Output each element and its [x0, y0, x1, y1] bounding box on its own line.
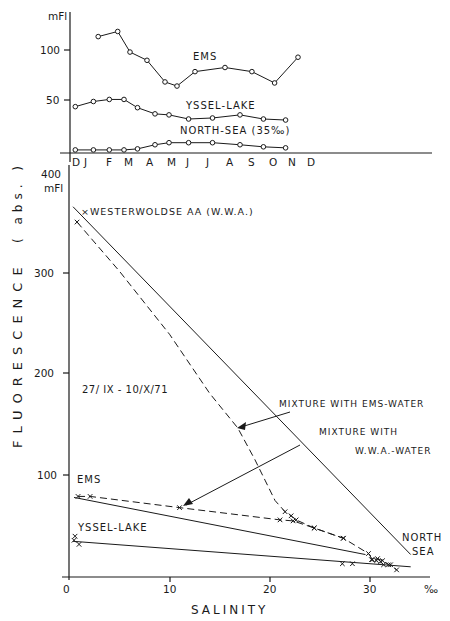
data-point-circle: [261, 145, 266, 150]
month-label: D: [307, 156, 315, 168]
wwa-label: ×WESTERWOLDSE AA (W.W.A.): [81, 206, 254, 217]
arrowhead-icon: [237, 422, 246, 430]
yssel-series-label: YSSEL-LAKE: [185, 100, 256, 111]
ytick-label-300: 300: [34, 267, 54, 279]
data-point-circle: [145, 58, 150, 63]
data-point-cross: [394, 568, 399, 573]
data-point-circle: [193, 69, 198, 74]
data-point-cross: [312, 526, 317, 531]
ems-mixture-arrow: [241, 412, 290, 427]
y-axis-title-suffix: ( abs. ): [11, 161, 25, 243]
data-point-circle: [128, 50, 133, 55]
top-unit-label: mFl: [48, 10, 67, 22]
xtick-label-30: 30: [363, 583, 376, 595]
month-label: O: [269, 156, 277, 168]
mix-wwa-label-2: W.W.A.-WATER: [355, 446, 432, 456]
north-label: NORTH: [402, 532, 442, 543]
xtick-label-0: 0: [63, 583, 70, 595]
ems-series-label: EMS: [193, 51, 217, 62]
ytick-label-200: 200: [34, 367, 54, 379]
top-panel: mFl 100 50 D J F M A M J J A S O N D EMS…: [40, 10, 432, 168]
month-label: F: [106, 156, 112, 168]
data-point-circle: [107, 148, 112, 153]
data-point-circle: [107, 97, 112, 102]
yssel-label: YSSEL-LAKE: [77, 522, 148, 533]
annotation-arrows: [183, 412, 300, 506]
ems-label: EMS: [77, 474, 101, 485]
data-point-cross: [283, 509, 288, 514]
northsea-series-label: NORTH-SEA (35‰): [180, 125, 290, 136]
arrowhead-icon: [183, 498, 193, 506]
series-line: [73, 541, 411, 567]
bottom-panel: 400 mFl 300 200 100 0 10 20 30 ‰ SALINIT…: [10, 161, 442, 617]
data-point-circle: [122, 148, 127, 153]
data-point-circle: [122, 97, 127, 102]
data-point-cross: [366, 551, 371, 556]
month-label: A: [146, 156, 154, 168]
data-point-circle: [153, 142, 158, 147]
data-point-circle: [163, 80, 168, 85]
data-point-circle: [223, 65, 228, 70]
data-point-circle: [272, 81, 277, 86]
data-point-circle: [238, 142, 243, 147]
y-axis-title: FLUORESCENCE: [10, 260, 25, 448]
data-point-circle: [91, 148, 96, 153]
wwa-mixture-arrow: [186, 445, 300, 505]
data-point-circle: [153, 112, 158, 117]
data-point-circle: [135, 147, 140, 152]
month-label: D: [72, 156, 80, 168]
data-point-cross: [341, 536, 346, 541]
month-label: J: [83, 156, 87, 168]
mix-wwa-label-1: MIXTURE WITH: [319, 427, 398, 437]
data-point-circle: [167, 140, 172, 145]
series-line: [73, 207, 411, 555]
figure: mFl 100 50 D J F M A M J J A S O N D EMS…: [0, 0, 450, 621]
data-point-cross: [77, 542, 82, 547]
data-point-circle: [186, 117, 191, 122]
xtick-label-20: 20: [263, 583, 276, 595]
sea-label: SEA: [412, 546, 435, 557]
month-labels: D J F M A M J J A S O N D: [72, 156, 315, 168]
x-axis-title: SALINITY: [191, 603, 268, 617]
data-point-circle: [210, 116, 215, 121]
ytick-label-400: 400: [41, 168, 61, 180]
month-label: J: [185, 156, 189, 168]
data-point-circle: [73, 104, 78, 109]
month-label: M: [124, 156, 133, 168]
xtick-label-10: 10: [163, 583, 176, 595]
month-label: M: [167, 156, 176, 168]
data-point-circle: [238, 113, 243, 118]
data-point-circle: [296, 55, 301, 60]
data-point-circle: [73, 148, 78, 153]
data-point-circle: [96, 34, 101, 39]
data-point-circle: [261, 117, 266, 122]
month-label: J: [205, 156, 209, 168]
data-point-circle: [175, 84, 180, 89]
data-point-circle: [135, 105, 140, 110]
data-point-circle: [250, 69, 255, 74]
date-label: 27/ IX - 10/X/71: [82, 384, 168, 395]
data-point-cross: [75, 220, 80, 225]
data-point-cross: [72, 538, 77, 543]
ytick-label-100: 100: [37, 469, 57, 481]
series-line: [77, 222, 397, 570]
data-point-cross: [73, 534, 78, 539]
data-point-circle: [283, 118, 288, 123]
data-point-circle: [91, 99, 96, 104]
x-unit-label: ‰: [424, 583, 438, 595]
data-point-circle: [210, 140, 215, 145]
month-label: S: [248, 156, 255, 168]
bottom-unit-label: mFl: [44, 182, 63, 194]
month-label: A: [226, 156, 234, 168]
data-point-circle: [115, 29, 120, 34]
data-point-circle: [167, 113, 172, 118]
data-point-circle: [186, 140, 191, 145]
top-ytick-label-50: 50: [46, 94, 59, 106]
month-label: N: [288, 156, 296, 168]
data-point-cross: [289, 514, 294, 519]
data-point-circle: [283, 146, 288, 151]
y-axis-title-group: FLUORESCENCE ( abs. ): [10, 161, 25, 448]
mix-ems-label: MIXTURE WITH EMS-WATER: [279, 399, 424, 409]
top-ytick-label-100: 100: [40, 44, 60, 56]
